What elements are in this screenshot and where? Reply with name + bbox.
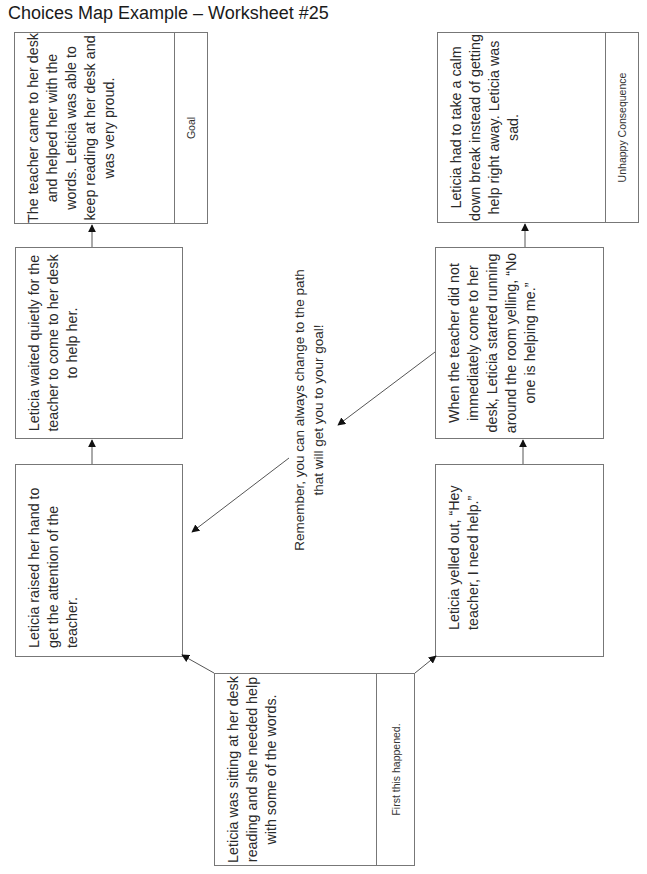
arrow-start-to-positive bbox=[182, 655, 214, 673]
arrow-negative-to-note bbox=[338, 352, 435, 425]
arrow-start-to-negative bbox=[415, 656, 436, 673]
connector-arrows bbox=[0, 0, 647, 874]
arrow-note-to-positive bbox=[192, 458, 289, 532]
